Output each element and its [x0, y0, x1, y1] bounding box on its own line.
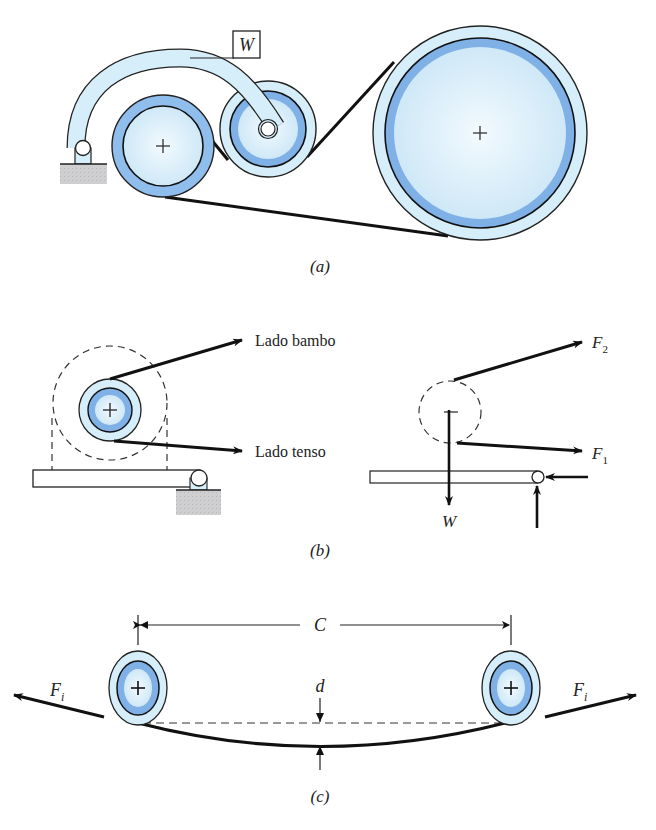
sagging-belt	[138, 723, 505, 747]
f2-arrow	[454, 342, 582, 380]
driver-pulley	[112, 95, 214, 197]
caption-a: (a)	[310, 257, 330, 276]
panel-a: W (a)	[60, 26, 587, 276]
slack-side-label: Lado bambo	[255, 332, 335, 349]
tight-side-label: Lado tenso	[255, 443, 326, 460]
tight-side-arrow	[114, 441, 242, 451]
belt-tension-diagram: W (a)	[0, 0, 656, 830]
panel-c: C d	[14, 615, 636, 806]
f1-arrow	[457, 443, 582, 451]
pivoted-motor-sketch: Lado bambo Lado tenso	[33, 332, 335, 515]
right-pulley	[482, 651, 540, 725]
weight-label: W	[239, 35, 256, 55]
panel-b: Lado bambo Lado tenso F2 F1 W	[33, 332, 608, 560]
caption-c: (c)	[311, 787, 330, 806]
f2-label: F2	[591, 333, 608, 355]
free-body-diagram: F2 F1 W	[370, 333, 608, 531]
sag-label: d	[316, 676, 326, 696]
weight-force-label: W	[442, 512, 458, 531]
center-distance-label: C	[314, 615, 327, 635]
initial-tension-left-label: Fi	[49, 680, 64, 704]
slack-side-arrow	[110, 340, 242, 379]
ground-support	[60, 164, 107, 184]
left-pulley	[109, 651, 167, 725]
center-distance-dimension: C	[138, 615, 511, 645]
large-pulley	[373, 26, 587, 240]
initial-tension-right-label: Fi	[572, 680, 587, 704]
caption-b: (b)	[310, 541, 330, 560]
initial-tension-right-arrow	[545, 695, 636, 717]
f1-label: F1	[591, 444, 608, 466]
